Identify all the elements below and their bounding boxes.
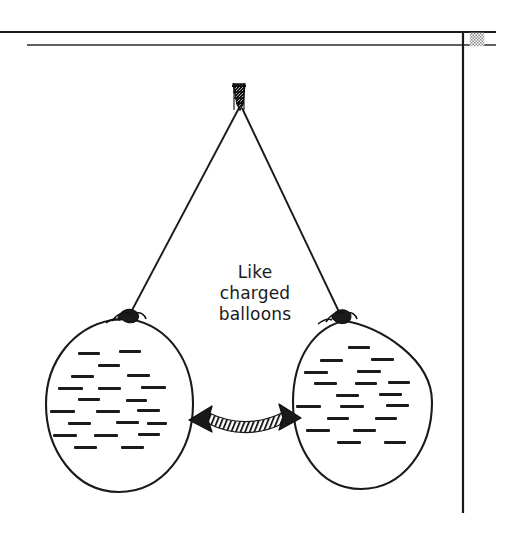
top-clamp-icon [232,83,246,110]
repulsion-double-arrow [189,404,301,433]
hatched-corner-swatch [470,33,484,46]
figure-canvas: Like charged balloons [0,0,512,539]
caption-like-charged-balloons: Like charged balloons [185,262,325,325]
arrow-shaft [207,412,284,433]
left-balloon-outline [46,319,193,492]
left-balloon [46,309,193,492]
right-balloon [293,310,432,489]
right-balloon-outline [293,320,432,489]
